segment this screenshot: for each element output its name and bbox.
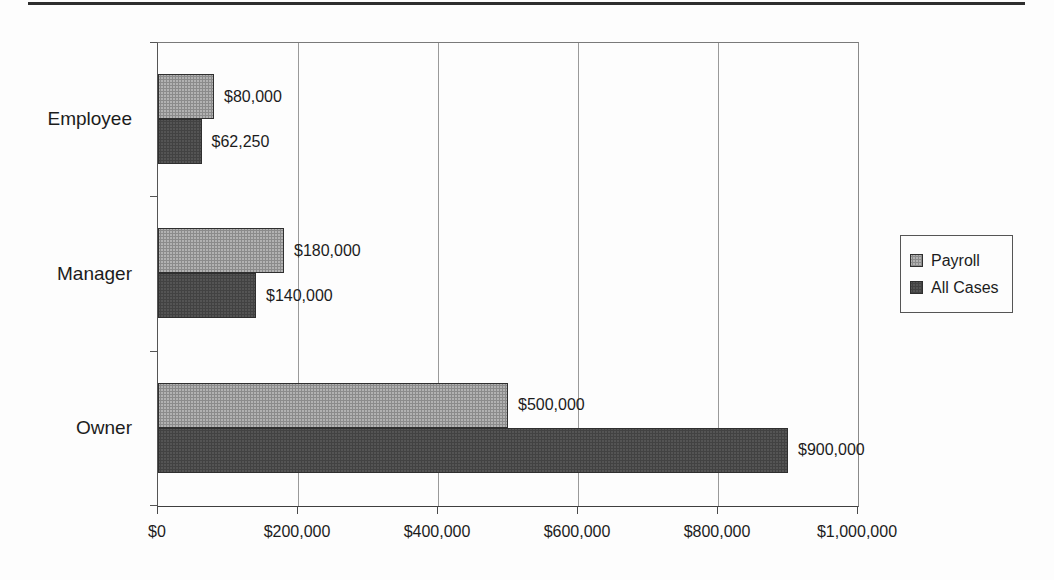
scanned-page: EmployeeManagerOwner $80,000$62,250$180,…: [0, 0, 1054, 580]
bar-payroll-manager: [158, 228, 284, 273]
value-axis: $0$200,000$400,000$600,000$800,000$1,000…: [0, 505, 1054, 565]
x-axis-tick: [857, 506, 858, 514]
legend-label-all-cases: All Cases: [931, 279, 999, 297]
x-axis-tick-label: $600,000: [544, 523, 611, 541]
bar-payroll-employee: [158, 74, 214, 119]
all-cases-swatch-icon: [910, 281, 923, 294]
bar-all-cases-owner: [158, 428, 788, 473]
x-axis-tick: [577, 506, 578, 514]
x-axis-tick: [157, 506, 158, 514]
category-label-manager: Manager: [0, 263, 132, 285]
x-axis-tick: [437, 506, 438, 514]
x-axis-tick: [297, 506, 298, 514]
legend: Payroll All Cases: [900, 235, 1013, 313]
legend-label-payroll: Payroll: [931, 252, 980, 270]
x-axis-tick: [717, 506, 718, 514]
value-label-all-cases-manager: $140,000: [266, 287, 333, 305]
x-axis-tick-label: $0: [148, 523, 166, 541]
bar-all-cases-manager: [158, 273, 256, 318]
value-label-all-cases-employee: $62,250: [212, 133, 270, 151]
value-label-all-cases-owner: $900,000: [798, 441, 865, 459]
value-label-payroll-manager: $180,000: [294, 242, 361, 260]
payroll-swatch-icon: [910, 254, 923, 267]
value-label-payroll-owner: $500,000: [518, 396, 585, 414]
category-label-owner: Owner: [0, 417, 132, 439]
category-label-employee: Employee: [0, 108, 132, 130]
page-top-rule: [28, 2, 1025, 5]
x-axis-tick-label: $800,000: [684, 523, 751, 541]
x-axis-tick-label: $400,000: [404, 523, 471, 541]
x-axis-tick-label: $1,000,000: [817, 523, 897, 541]
bar-all-cases-employee: [158, 119, 202, 164]
legend-item-payroll: Payroll: [910, 252, 1012, 270]
category-axis-labels: EmployeeManagerOwner: [0, 42, 148, 505]
plot-area: $80,000$62,250$180,000$140,000$500,000$9…: [157, 42, 859, 507]
value-label-payroll-employee: $80,000: [224, 88, 282, 106]
bar-payroll-owner: [158, 383, 508, 428]
legend-item-all-cases: All Cases: [910, 279, 1012, 297]
x-axis-tick-label: $200,000: [264, 523, 331, 541]
